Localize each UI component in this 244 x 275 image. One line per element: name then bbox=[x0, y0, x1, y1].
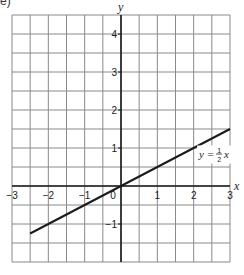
x-tick-label: −2 bbox=[43, 190, 55, 201]
y-tick-label: 3 bbox=[111, 67, 117, 78]
y-tick-label: 4 bbox=[111, 29, 117, 40]
fraction-denominator: 2 bbox=[217, 156, 221, 163]
line-chart: xy −3−2−10123−11234 y = 12x bbox=[0, 0, 244, 275]
x-axis-label: x bbox=[233, 179, 240, 193]
axes: xy bbox=[12, 0, 240, 262]
y-tick-label: 1 bbox=[111, 143, 117, 154]
data-series bbox=[30, 129, 230, 234]
equation-prefix: y = bbox=[198, 148, 214, 160]
equation-label: y = 12x bbox=[197, 146, 237, 164]
series-line bbox=[30, 129, 230, 234]
y-tick-label: 2 bbox=[111, 105, 117, 116]
y-tick-label: −1 bbox=[106, 219, 118, 230]
x-tick-label: 3 bbox=[227, 190, 233, 201]
fraction-numerator: 1 bbox=[217, 147, 221, 154]
equation-suffix: x bbox=[223, 148, 229, 160]
y-axis-label: y bbox=[117, 0, 124, 14]
x-tick-label: 2 bbox=[191, 190, 197, 201]
x-tick-label: −3 bbox=[6, 190, 18, 201]
x-tick-label: −1 bbox=[79, 190, 91, 201]
x-tick-label: 1 bbox=[155, 190, 161, 201]
